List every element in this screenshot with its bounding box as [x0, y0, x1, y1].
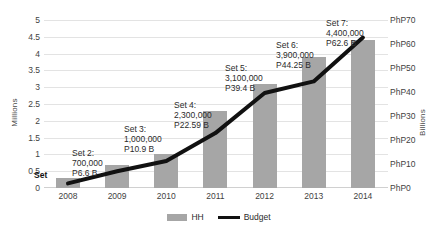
annotation-set-3-line2: 1,000,000 [124, 134, 162, 144]
annotation-set-6-line1: Set 6: [276, 40, 314, 50]
y-tick-left: 5 [2, 16, 40, 25]
y-tick-right: PhP70 [390, 16, 434, 25]
legend-line-swatch-icon [218, 216, 240, 219]
y-tick-right: PhP20 [390, 136, 434, 145]
annotation-set-3-line1: Set 3: [124, 124, 162, 134]
annotation-set-2-line1: Set 2: [72, 148, 103, 158]
annotation-set-3: Set 3: 1,000,000 P10.9 B [124, 124, 162, 155]
annotation-set-4-line1: Set 4: [174, 100, 212, 110]
x-tick-2012: 2012 [241, 191, 289, 201]
annotation-set-6-line3: P44.25 B [276, 60, 314, 70]
annotation-set-4-line3: P22.59 B [174, 120, 212, 130]
x-tick-2014: 2014 [339, 191, 387, 201]
y-tick-right: PhP0 [390, 184, 434, 193]
annotation-set-6: Set 6: 3,900,000 P44.25 B [276, 40, 314, 71]
annotation-set-7-line1: Set 7: [326, 18, 364, 28]
y-tick-left: 4.5 [2, 33, 40, 42]
y-tick-left: 1.5 [2, 134, 40, 143]
annotation-set-3-line3: P10.9 B [124, 144, 162, 154]
y-tick-right: PhP60 [390, 40, 434, 49]
y-axis-left-ticks: 5 4.5 4 3.5 3 2.5 2 1.5 1 0.5 0 [0, 0, 40, 236]
annotation-set-5-line3: P39.4 B [225, 83, 263, 93]
legend-bar-swatch-icon [167, 214, 187, 221]
annotation-set-4: Set 4: 2,300,000 P22.59 B [174, 100, 212, 131]
y-tick-left: 2 [2, 117, 40, 126]
chart-container: Millions Billions 5 4.5 4 3.5 3 2.5 2 1.… [0, 0, 438, 236]
y-tick-left: 4 [2, 50, 40, 59]
legend-label-hh: HH [191, 212, 203, 222]
legend-entry-hh: HH [167, 212, 203, 222]
x-tick-2008: 2008 [44, 191, 92, 201]
y-tick-right: PhP50 [390, 64, 434, 73]
chart-legend: HH Budget [0, 212, 438, 222]
annotation-set-2: Set 2: 700,000 P6.6 B [72, 148, 103, 179]
y-tick-left: 3.5 [2, 66, 40, 75]
annotation-set-7-line2: 4,400,000 [326, 28, 364, 38]
annotation-set-2-line3: P6.6 B [72, 168, 103, 178]
y-tick-right: PhP10 [390, 160, 434, 169]
y-tick-left: 0 [2, 184, 40, 193]
y-axis-right-ticks: PhP70 PhP60 PhP50 PhP40 PhP30 PhP20 PhP1… [390, 0, 438, 236]
x-tick-2013: 2013 [290, 191, 338, 201]
annotation-set-5-line1: Set 5: [225, 63, 263, 73]
y-tick-left: 3 [2, 83, 40, 92]
annotation-set-6-line2: 3,900,000 [276, 50, 314, 60]
annotation-set-2-line2: 700,000 [72, 158, 103, 168]
x-axis-labels: 2008 2009 2010 2011 2012 2013 2014 [44, 191, 388, 207]
y-tick-right: PhP40 [390, 88, 434, 97]
y-tick-left: 2.5 [2, 100, 40, 109]
x-tick-2010: 2010 [142, 191, 190, 201]
annotation-set-5: Set 5: 3,100,000 P39.4 B [225, 63, 263, 94]
x-tick-2011: 2011 [191, 191, 239, 201]
annotation-set-7-line3: P62.6 B [326, 38, 364, 48]
y-tick-right: PhP30 [390, 112, 434, 121]
x-tick-2009: 2009 [93, 191, 141, 201]
legend-label-budget: Budget [244, 212, 271, 222]
annotation-set-1: Set [34, 170, 47, 180]
legend-entry-budget: Budget [218, 212, 271, 222]
annotation-set-7: Set 7: 4,400,000 P62.6 B [326, 18, 364, 49]
annotation-set-5-line2: 3,100,000 [225, 73, 263, 83]
y-tick-left: 1 [2, 150, 40, 159]
annotation-set-4-line2: 2,300,000 [174, 110, 212, 120]
